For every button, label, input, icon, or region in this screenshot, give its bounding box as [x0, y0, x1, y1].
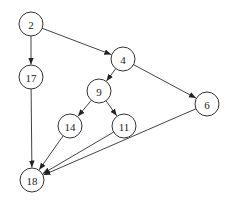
- node-label: 14: [65, 121, 77, 133]
- edge-14-to-18: [39, 136, 63, 170]
- node-11: 11: [112, 114, 136, 138]
- node-9: 9: [87, 79, 111, 103]
- node-18: 18: [20, 168, 44, 192]
- node-14: 14: [58, 114, 82, 138]
- node-label: 9: [96, 86, 102, 98]
- nodes-layer: 217496141118: [19, 12, 219, 192]
- directed-graph: 217496141118: [0, 0, 249, 204]
- node-label: 6: [204, 99, 210, 111]
- edge-4-to-9: [107, 69, 116, 81]
- node-6: 6: [195, 92, 219, 116]
- node-label: 11: [119, 121, 130, 133]
- edge-17-to-18: [31, 89, 32, 168]
- node-label: 2: [28, 19, 34, 31]
- node-4: 4: [111, 47, 135, 71]
- node-2: 2: [19, 12, 43, 36]
- edge-4-to-6: [134, 65, 196, 98]
- edge-11-to-18: [43, 132, 114, 174]
- edge-9-to-14: [78, 100, 91, 116]
- edge-2-to-4: [42, 28, 111, 54]
- node-label: 4: [120, 54, 126, 66]
- node-17: 17: [19, 65, 43, 89]
- edge-9-to-11: [106, 101, 117, 116]
- edges-layer: [31, 28, 196, 175]
- node-label: 17: [26, 72, 38, 84]
- node-label: 18: [27, 175, 39, 187]
